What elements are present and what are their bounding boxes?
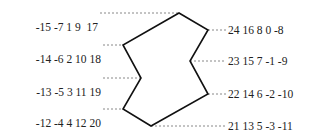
left-row-4: -12 -4 4 12 20 (10, 102, 101, 130)
left-row-1-numbers: -15 -7 1 9 (36, 21, 81, 33)
left-row-3-numbers: -13 -5 3 11 (36, 86, 86, 98)
right-row-2: 23 15 7 -1 -9 (228, 54, 287, 68)
left-row-3: -13 -5 3 11 19 (10, 71, 101, 99)
right-row-1: 24 16 8 0 -8 (228, 23, 284, 37)
left-row-2-end: 18 (90, 53, 102, 65)
octagon-shape (123, 13, 208, 126)
right-row-4: 21 13 5 -3 -11 (228, 119, 293, 133)
left-row-3-end: 19 (90, 86, 102, 98)
left-row-2: -14 -6 2 10 18 (10, 38, 101, 66)
left-row-1: -15 -7 1 9 17 (10, 6, 98, 34)
left-row-4-end: 20 (90, 117, 102, 129)
left-row-1-end: 17 (87, 21, 99, 33)
right-row-3: 22 14 6 -2 -10 (228, 87, 293, 101)
left-row-4-numbers: -12 -4 4 12 (36, 117, 87, 129)
left-row-2-numbers: -14 -6 2 10 (36, 53, 87, 65)
